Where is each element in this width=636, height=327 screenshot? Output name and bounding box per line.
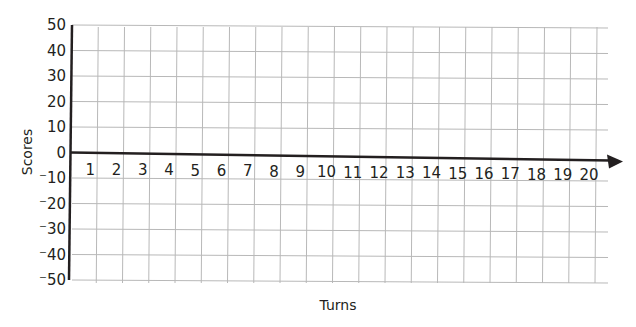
y-tick-label: ⁻10 bbox=[39, 169, 66, 187]
grid-line-horizontal bbox=[72, 25, 608, 28]
y-tick-label: 20 bbox=[47, 93, 66, 111]
x-tick-label: 13 bbox=[396, 164, 415, 182]
x-tick-label: 19 bbox=[553, 166, 572, 184]
grid-line-horizontal bbox=[72, 229, 608, 232]
grid-line-vertical bbox=[543, 27, 545, 283]
y-tick-label: 50 bbox=[47, 16, 66, 34]
x-tick-label: 4 bbox=[164, 161, 174, 179]
grid-line-vertical bbox=[490, 27, 492, 283]
grid-line-vertical bbox=[516, 27, 518, 283]
x-tick-label: 20 bbox=[579, 166, 598, 184]
grid-line-vertical bbox=[385, 27, 387, 283]
grid-line-horizontal bbox=[72, 255, 608, 258]
x-tick-label: 14 bbox=[422, 164, 441, 182]
grid-line-horizontal bbox=[72, 280, 608, 283]
grid-line-vertical bbox=[464, 27, 466, 283]
grid-line-vertical bbox=[359, 27, 361, 283]
grid-line-vertical bbox=[123, 27, 125, 283]
y-tick-labels: 50403020100⁻10⁻20⁻30⁻40⁻50 bbox=[39, 16, 66, 289]
grid-line-vertical bbox=[149, 27, 151, 283]
y-tick-label: 0 bbox=[56, 144, 66, 162]
grid-line-vertical bbox=[411, 27, 413, 283]
x-tick-label: 9 bbox=[295, 163, 305, 181]
grid-line-vertical bbox=[595, 27, 597, 283]
y-tick-label: 40 bbox=[47, 42, 66, 60]
x-tick-label: 10 bbox=[317, 163, 336, 181]
x-axis-arrow-icon bbox=[607, 155, 623, 169]
grid-line-vertical bbox=[96, 27, 98, 283]
grid-line-vertical bbox=[333, 27, 335, 283]
y-tick-label: ⁻20 bbox=[39, 195, 66, 213]
x-axis-line bbox=[71, 153, 611, 161]
grid-line-vertical bbox=[569, 27, 571, 283]
grid-line-horizontal bbox=[72, 102, 608, 105]
y-tick-label: 10 bbox=[47, 118, 66, 136]
x-tick-label: 18 bbox=[527, 166, 546, 184]
grid-line-horizontal bbox=[72, 76, 608, 79]
x-tick-label: 7 bbox=[243, 162, 253, 180]
x-tick-label: 11 bbox=[343, 164, 362, 182]
grid-line-horizontal bbox=[72, 127, 608, 130]
x-axis-title: Turns bbox=[319, 297, 357, 313]
grid-line-vertical bbox=[438, 27, 440, 283]
y-tick-label: ⁻30 bbox=[39, 220, 66, 238]
grid-line-horizontal bbox=[72, 51, 608, 54]
x-tick-label: 5 bbox=[190, 162, 200, 180]
x-tick-label: 3 bbox=[138, 161, 148, 179]
y-tick-label: 30 bbox=[47, 67, 66, 85]
y-tick-label: ⁻50 bbox=[39, 271, 66, 289]
x-tick-label: 8 bbox=[269, 163, 279, 181]
grid-line-horizontal bbox=[72, 204, 608, 207]
x-tick-label: 12 bbox=[369, 164, 388, 182]
scores-turns-chart: 50403020100⁻10⁻20⁻30⁻40⁻50 1234567891011… bbox=[0, 0, 636, 327]
x-tick-label: 1 bbox=[85, 161, 95, 179]
x-tick-label: 17 bbox=[501, 165, 520, 183]
y-tick-label: ⁻40 bbox=[39, 246, 66, 264]
x-tick-label: 6 bbox=[217, 162, 227, 180]
x-tick-label: 2 bbox=[112, 161, 122, 179]
x-tick-label: 16 bbox=[474, 165, 493, 183]
y-axis-title: Scores bbox=[19, 129, 35, 176]
axes bbox=[69, 25, 623, 280]
x-tick-label: 15 bbox=[448, 165, 467, 183]
